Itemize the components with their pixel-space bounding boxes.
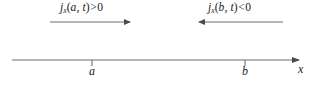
left-flux-argument: a, t: [71, 1, 86, 13]
tick-label-a: a: [85, 64, 99, 79]
tick-label-b: b: [238, 64, 252, 79]
left-flux-value: 0: [97, 1, 103, 13]
diagram-canvas: [0, 0, 316, 85]
x-axis-label: x: [298, 62, 303, 77]
right-flux-label: jx(b, t)<0: [208, 1, 251, 15]
left-flux-label: jx(a, t)>0: [60, 1, 103, 15]
right-flux-value: 0: [245, 1, 251, 13]
right-flux-argument: b, t: [219, 1, 234, 13]
flux-axis-diagram: jx(a, t)>0 jx(b, t)<0 a b x: [0, 0, 316, 85]
